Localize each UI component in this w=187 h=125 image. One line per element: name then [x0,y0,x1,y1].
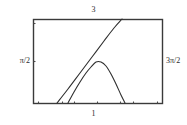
plot-series [57,19,125,103]
axis-label-top: 3 [0,6,187,14]
axis-label-right: 3π/2 [166,57,180,65]
axis-ticks [34,24,158,104]
series-arc-curve [68,61,125,103]
plot-figure: 3 1 π/2 3π/2 [0,0,187,125]
axis-label-left: π/2 [6,57,30,65]
axis-label-bottom: 1 [0,110,187,118]
series-rising-line [57,19,122,103]
